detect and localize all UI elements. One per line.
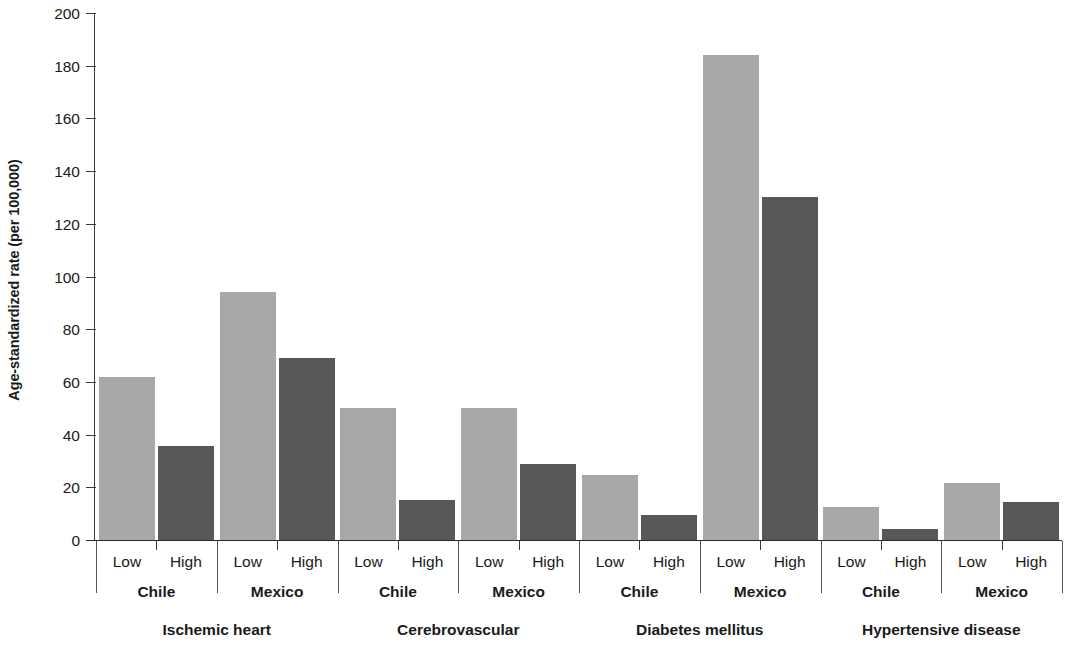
x-axis-country-label: Mexico (458, 583, 579, 601)
y-axis-tick: 60 (86, 382, 96, 383)
y-axis-tick-label: 180 (54, 58, 80, 76)
x-axis-country-label: Chile (338, 583, 459, 601)
bar (762, 197, 818, 540)
x-axis-country-label: Chile (821, 583, 942, 601)
y-axis-tick: 80 (86, 329, 96, 330)
y-axis-tick: 100 (86, 277, 96, 278)
x-axis-tick (639, 541, 640, 550)
y-axis-tick: 120 (86, 224, 96, 225)
x-axis-tick (398, 541, 399, 550)
x-axis-level-label: High (993, 553, 1067, 571)
y-axis-tick: 20 (86, 487, 96, 488)
bar (703, 55, 759, 540)
y-axis-tick: 140 (86, 171, 96, 172)
bar (582, 475, 638, 540)
x-axis-country-label: Chile (96, 583, 217, 601)
x-axis-tick (1002, 541, 1003, 550)
x-axis-group-label: Cerebrovascular (338, 621, 580, 639)
y-axis-tick: 180 (86, 66, 96, 67)
y-axis-tick-label: 200 (54, 5, 80, 23)
bar (220, 292, 276, 540)
y-axis-tick-label: 160 (54, 110, 80, 128)
bar (823, 507, 879, 540)
y-axis-tick: 40 (86, 435, 96, 436)
y-axis-tick-label: 40 (63, 427, 80, 445)
x-axis-labels: LowHighLowHighLowHighLowHighLowHighLowHi… (96, 541, 1062, 651)
x-axis-tick (519, 541, 520, 550)
bar (340, 408, 396, 540)
bar (158, 446, 214, 540)
bar (641, 515, 697, 540)
y-axis-tick: 160 (86, 118, 96, 119)
x-axis-group-label: Hypertensive disease (821, 621, 1063, 639)
x-axis-country-label: Mexico (217, 583, 338, 601)
y-axis-tick-label: 120 (54, 216, 80, 234)
bar (520, 464, 576, 540)
bar (882, 529, 938, 540)
x-axis-country-label: Mexico (941, 583, 1062, 601)
bar (399, 500, 455, 540)
x-axis-group-label: Diabetes mellitus (579, 621, 821, 639)
y-axis-title: Age-standardized rate (per 100,000) (0, 0, 28, 560)
x-axis-tick (277, 541, 278, 550)
x-axis-tick (881, 541, 882, 550)
bar (944, 483, 1000, 540)
y-axis-tick-label: 60 (63, 374, 80, 392)
y-axis-tick: 200 (86, 13, 96, 14)
bars-layer (96, 13, 1062, 540)
bar (279, 358, 335, 540)
y-axis-tick-label: 100 (54, 269, 80, 287)
y-axis-tick-label: 80 (63, 321, 80, 339)
y-axis-tick-label: 0 (71, 532, 80, 550)
x-axis-country-label: Chile (579, 583, 700, 601)
plot-area: 020406080100120140160180200 (96, 13, 1062, 540)
bar (1003, 502, 1059, 540)
x-axis-country-label: Mexico (700, 583, 821, 601)
bar (99, 377, 155, 540)
bar (461, 408, 517, 540)
y-axis-tick-label: 140 (54, 163, 80, 181)
x-axis-group-label: Ischemic heart (96, 621, 338, 639)
y-axis-tick-label: 20 (63, 479, 80, 497)
x-axis-tick (156, 541, 157, 550)
x-axis-tick (760, 541, 761, 550)
y-axis-title-text: Age-standardized rate (per 100,000) (6, 159, 22, 400)
